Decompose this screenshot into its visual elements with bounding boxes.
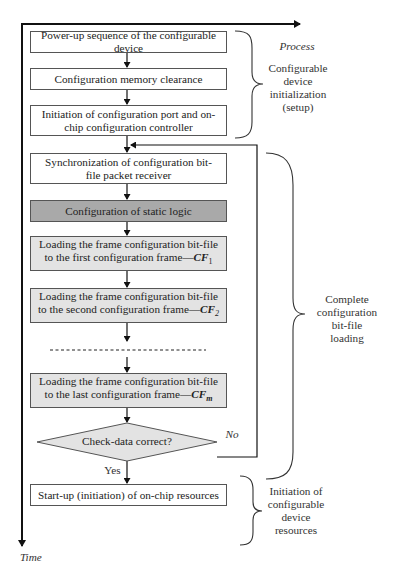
step-load-last-frame: Loading the frame configuration bit-file…	[30, 373, 227, 408]
time-axis-label: Time	[20, 551, 50, 564]
step-startup: Start-up (initiation) of on-chip resourc…	[30, 484, 227, 506]
brace-loading	[266, 153, 305, 479]
brace-initialization	[235, 31, 263, 138]
step-label: Loading the frame configuration bit-file…	[39, 238, 218, 263]
step-memory-clearance: Configuration memory clearance	[30, 68, 227, 90]
step-synchronization: Synchronization of configuration bit-fil…	[30, 153, 227, 184]
frame-subscript: m	[206, 395, 212, 404]
step-label: Power-up sequence of the configurable de…	[34, 29, 223, 55]
step-load-second-frame: Loading the frame configuration bit-file…	[30, 288, 227, 323]
step-label: Configuration of static logic	[65, 205, 191, 218]
step-label: Configuration memory clearance	[55, 73, 203, 86]
step-static-logic: Configuration of static logic	[30, 200, 227, 222]
step-label: Loading the frame configuration bit-file…	[38, 290, 218, 315]
step-label: Synchronization of configuration bit-fil…	[45, 156, 212, 182]
yes-label: Yes	[100, 464, 125, 477]
frame-symbol: CF	[194, 251, 209, 263]
phase-initialization-label: Configurable device initialization (setu…	[268, 62, 328, 114]
step-load-first-frame: Loading the frame configuration bit-file…	[30, 236, 227, 271]
phase-resources-label: Initiation of configurable device resour…	[265, 485, 327, 537]
step-power-up: Power-up sequence of the configurable de…	[30, 31, 227, 53]
brace-resources	[240, 476, 262, 545]
phase-loading-label: Complete configuration bit-file loading	[316, 293, 378, 345]
frame-subscript: 1	[209, 258, 213, 267]
frame-symbol: CF	[200, 303, 215, 315]
decision-label: Check-data correct?	[67, 435, 187, 447]
no-label: No	[222, 428, 242, 441]
step-port-initiation: Initiation of configuration port and on-…	[30, 105, 227, 136]
process-heading: Process	[272, 40, 322, 53]
step-label: Initiation of configuration port and on-…	[34, 108, 223, 134]
step-label: Start-up (initiation) of on-chip resourc…	[38, 489, 219, 502]
frame-symbol: CF	[191, 388, 206, 400]
frame-subscript: 2	[215, 310, 219, 319]
